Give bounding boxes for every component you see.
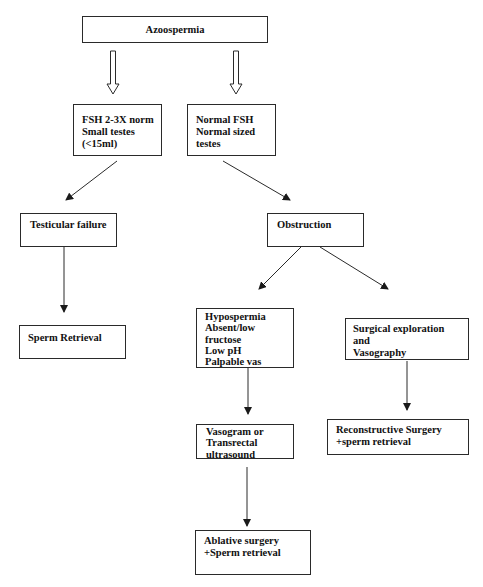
arrow-obstruction-to-hypospermia [259, 247, 301, 289]
node-azoospermia: Azoospermia [82, 16, 268, 43]
flowchart-edges [0, 0, 483, 587]
node-testicular-failure: Testicular failure [20, 213, 117, 247]
node-obstruction: Obstruction [267, 213, 364, 247]
arrow-fsh-to-obstruction [223, 161, 290, 200]
flowchart-canvas: Azoospermia FSH 2-3X norm Small testes (… [0, 0, 483, 587]
node-fsh-high-small-testes: FSH 2-3X norm Small testes (<15ml) [73, 104, 162, 156]
node-hypospermia-findings: Hypospermia Absent/low fructose Low pH P… [196, 308, 294, 368]
node-normal-fsh-normal-testes: Normal FSH Normal sized testes [187, 104, 276, 156]
node-sperm-retrieval: Sperm Retrieval [19, 325, 126, 359]
arrow-obstruction-to-surgical [320, 247, 388, 289]
node-surgical-exploration: Surgical exploration and Vasography [345, 318, 469, 360]
node-reconstructive-surgery: Reconstructive Surgery +sperm retrieval [327, 419, 469, 455]
arrow-fsh-to-testicular-failure [66, 161, 117, 200]
node-ablative-surgery: Ablative surgery +Sperm retrieval [195, 530, 311, 575]
hollow-arrow-left [107, 51, 119, 94]
node-vasogram-ultrasound: Vasogram or Transrectal ultrasound [196, 424, 294, 459]
hollow-arrow-right [230, 51, 242, 94]
